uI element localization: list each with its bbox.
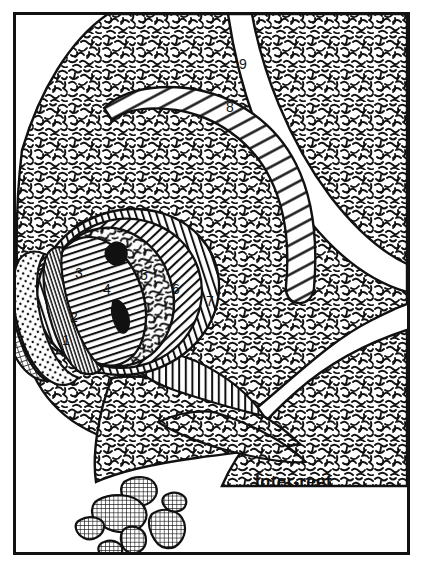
zone-label-1: 1 (62, 332, 70, 348)
zone-label-3: 3 (75, 265, 83, 281)
block-5 (121, 527, 146, 554)
zone-label-2: 2 (70, 309, 78, 325)
inter-reef-label: Inter-reef (255, 472, 332, 491)
zone-label-5: 5 (140, 267, 148, 283)
reef-facies-figure: 1 2 3 4 5 6 7 8 9 Inter-reef (0, 0, 422, 572)
zone-label-9: 9 (239, 56, 247, 72)
zone-label-4: 4 (103, 281, 111, 297)
block-3 (76, 517, 104, 539)
block-7 (162, 493, 186, 512)
zone-label-8: 8 (226, 99, 234, 115)
zone-label-7: 7 (206, 293, 214, 309)
reef-facies-diagram: 1 2 3 4 5 6 7 8 9 Inter-reef (0, 0, 422, 572)
zone-label-6: 6 (172, 281, 180, 297)
